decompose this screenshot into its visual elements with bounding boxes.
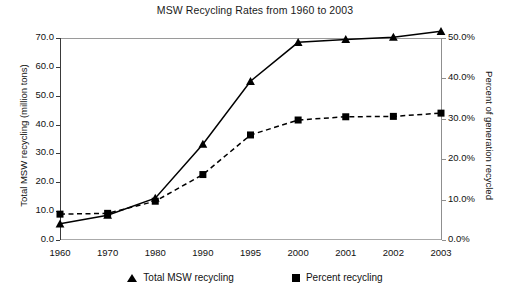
- series-percent-recycling: [57, 110, 445, 218]
- series-line: [60, 113, 441, 214]
- x-axis-tick-label: 2001: [323, 247, 369, 258]
- legend-item[interactable]: Percent recycling: [292, 272, 383, 283]
- y-axis-right-tick-mark: [442, 200, 446, 201]
- y-axis-right-tick-label: 40.0%: [448, 71, 488, 82]
- y-axis-left-title: Total MSW recycling (million tons): [18, 51, 29, 221]
- x-axis-tick-label: 1990: [180, 247, 226, 258]
- chart-title: MSW Recycling Rates from 1960 to 2003: [0, 4, 510, 16]
- data-point-triangle-marker: [437, 27, 446, 35]
- square-icon: [292, 274, 300, 282]
- y-axis-left-tick-label: 60.0: [20, 60, 54, 71]
- y-axis-left-tick-label: 10.0: [20, 204, 54, 215]
- y-axis-right-tick-label: 10.0%: [448, 193, 488, 204]
- data-point-square-marker: [247, 131, 254, 138]
- chart-container: MSW Recycling Rates from 1960 to 2003 To…: [0, 0, 510, 297]
- data-point-square-marker: [152, 198, 159, 205]
- x-axis-tick-label: 1995: [228, 247, 274, 258]
- data-point-square-marker: [390, 113, 397, 120]
- y-axis-right-tick-mark: [442, 78, 446, 79]
- plot-area: [60, 38, 442, 240]
- y-axis-left-tick-label: 70.0: [20, 31, 54, 42]
- y-axis-left-tick-label: 40.0: [20, 118, 54, 129]
- y-axis-left-tick-label: 50.0: [20, 89, 54, 100]
- data-point-square-marker: [104, 210, 111, 217]
- x-axis-tick-label: 1960: [37, 247, 83, 258]
- y-axis-left-tick-label: 0.0: [20, 233, 54, 244]
- y-axis-right-tick-label: 0.0%: [448, 233, 488, 244]
- legend-item[interactable]: Total MSW recycling: [127, 272, 234, 283]
- y-axis-right-tick-label: 30.0%: [448, 112, 488, 123]
- y-axis-left-tick-label: 20.0: [20, 175, 54, 186]
- y-axis-left-tick-label: 30.0: [20, 146, 54, 157]
- triangle-icon: [127, 274, 137, 282]
- data-point-square-marker: [438, 110, 445, 117]
- x-axis-tick-label: 2003: [418, 247, 464, 258]
- x-axis-tick-label: 2000: [275, 247, 321, 258]
- series-line: [60, 31, 441, 223]
- y-axis-right-tick-mark: [442, 38, 446, 39]
- data-point-square-marker: [199, 171, 206, 178]
- legend-item-label: Percent recycling: [306, 272, 383, 283]
- y-axis-left-tick-mark: [56, 240, 60, 241]
- y-axis-right-tick-label: 50.0%: [448, 31, 488, 42]
- y-axis-right-tick-mark: [442, 119, 446, 120]
- x-axis-tick-label: 1980: [132, 247, 178, 258]
- series-total-msw-recycling: [56, 27, 446, 227]
- series-layer: [60, 38, 442, 240]
- y-axis-right-tick-mark: [442, 240, 446, 241]
- x-axis-tick-label: 1970: [85, 247, 131, 258]
- chart-legend: Total MSW recyclingPercent recycling: [0, 272, 510, 283]
- legend-item-label: Total MSW recycling: [143, 272, 234, 283]
- data-point-square-marker: [57, 211, 64, 218]
- x-axis-tick-label: 2002: [370, 247, 416, 258]
- data-point-square-marker: [295, 117, 302, 124]
- y-axis-right-tick-label: 20.0%: [448, 152, 488, 163]
- data-point-square-marker: [342, 113, 349, 120]
- y-axis-right-tick-mark: [442, 159, 446, 160]
